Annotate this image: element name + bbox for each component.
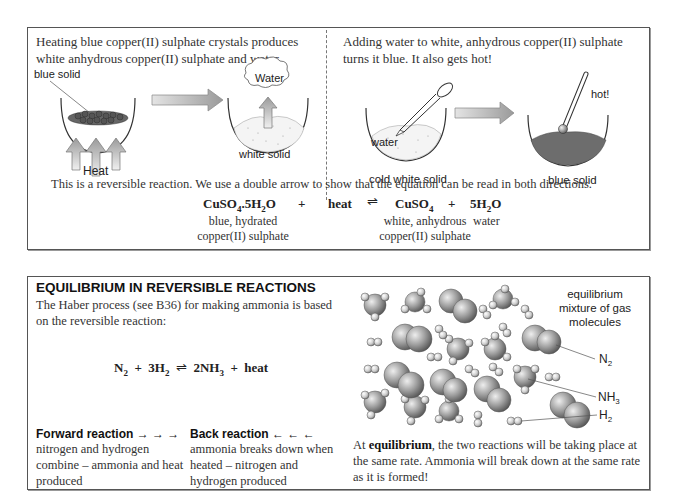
plus-sign: +	[448, 196, 455, 212]
heat-term: heat	[328, 196, 352, 212]
nh3-label: NH3	[598, 390, 620, 406]
reversible-caption: This is a reversible reaction. We use a …	[51, 176, 651, 193]
section-heading: EQUILIBRIUM IN REVERSIBLE REACTIONS	[36, 280, 316, 295]
haber-equation: N2 + 3H2 ⇌ 2NH3 + heat	[114, 360, 268, 378]
equilibrium-explanation: At equilibrium, the two reactions will b…	[353, 437, 643, 485]
back-reaction-text: ammonia breaks down when heated – nitrog…	[190, 441, 335, 489]
hot-label: hot!	[591, 88, 609, 100]
plus-sign: +	[298, 196, 305, 212]
mixture-caption: equilibrium mixture of gas molecules	[550, 287, 640, 329]
anhydrous-formula: CuSO4	[395, 196, 433, 214]
forward-reaction-block: Forward reaction → → → nitrogen and hydr…	[36, 427, 186, 489]
water-term-label: water	[473, 214, 500, 229]
haber-intro-text: The Haber process (see B36) for making a…	[36, 297, 336, 329]
n2-label: N2	[599, 352, 612, 368]
reversible-reaction-panel: Heating blue copper(II) sulphate crystal…	[27, 27, 650, 250]
back-reaction-block: Back reaction ← ← ← ammonia breaks down …	[190, 427, 335, 489]
copper-sulphate-equation: CuSO4.5H2O	[203, 196, 276, 214]
water-dropper-label: water	[371, 136, 398, 148]
reversible-arrow-icon: ⇌	[367, 194, 378, 210]
forward-reaction-title: Forward reaction → → →	[36, 427, 186, 441]
water-cloud-label: Water	[255, 72, 284, 84]
white-solid-label: white solid	[239, 148, 290, 160]
forward-reaction-text: nitrogen and hydrogen combine – ammonia …	[36, 441, 186, 489]
h2-label: H2	[599, 408, 612, 424]
equilibrium-panel: EQUILIBRIUM IN REVERSIBLE REACTIONS The …	[27, 276, 650, 490]
hydrated-label: blue, hydrated copper(II) sulphate	[183, 214, 303, 244]
water-formula: 5H2O	[470, 196, 501, 214]
back-reaction-title: Back reaction ← ← ←	[190, 427, 335, 441]
anhydrous-label: white, anhydrous copper(II) sulphate	[370, 214, 480, 244]
